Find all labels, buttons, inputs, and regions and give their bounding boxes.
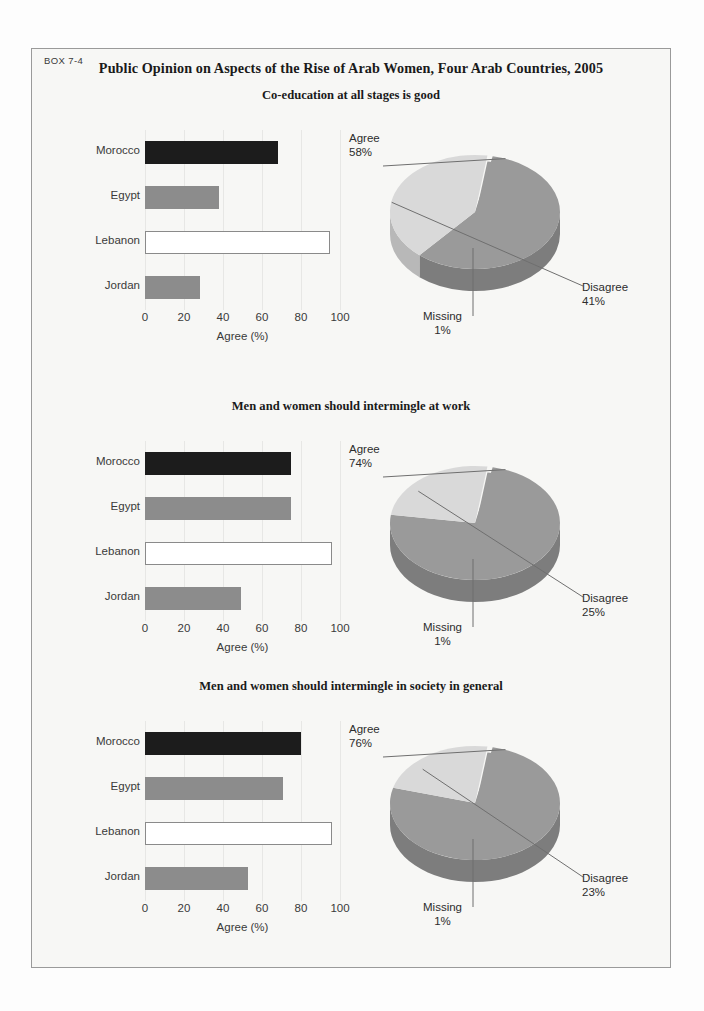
bar-category-label: Lebanon — [50, 825, 140, 837]
pie-label-disagree-text: Disagree — [582, 872, 628, 884]
x-tick-80: 80 — [295, 622, 308, 634]
pie-label-disagree: Disagree23% — [582, 871, 628, 900]
x-tick-0: 0 — [142, 622, 148, 634]
pie-label-missing-value: 1% — [423, 634, 462, 648]
x-tick-60: 60 — [256, 902, 269, 914]
pie-label-agree-value: 76% — [349, 736, 380, 750]
pie-label-missing-text: Missing — [423, 621, 462, 633]
bar-x-axis: 020406080100Agree (%) — [145, 902, 340, 936]
gridline-100 — [340, 441, 341, 621]
bar-plot-area: MoroccoEgyptLebanonJordan — [145, 441, 340, 621]
bar-chart-2: MoroccoEgyptLebanonJordan020406080100Agr… — [45, 441, 345, 656]
x-tick-80: 80 — [295, 311, 308, 323]
page-title: Public Opinion on Aspects of the Rise of… — [31, 60, 671, 77]
x-tick-60: 60 — [256, 622, 269, 634]
pie-label-agree-text: Agree — [349, 723, 380, 735]
pie-label-missing-text: Missing — [423, 310, 462, 322]
pie-label-disagree-value: 25% — [582, 605, 628, 619]
bar-plot-area: MoroccoEgyptLebanonJordan — [145, 721, 340, 901]
bar-category-label: Egypt — [50, 189, 140, 201]
bar-lebanon — [145, 542, 332, 565]
pie-graphic — [345, 130, 645, 345]
pie-label-missing-value: 1% — [423, 323, 462, 337]
bar-category-label: Egypt — [50, 780, 140, 792]
pie-label-disagree-text: Disagree — [582, 592, 628, 604]
bar-category-label: Morocco — [50, 144, 140, 156]
x-tick-0: 0 — [142, 902, 148, 914]
pie-label-agree: Agree76% — [349, 722, 380, 751]
x-tick-40: 40 — [217, 902, 230, 914]
x-tick-20: 20 — [178, 622, 191, 634]
pie-chart-2: Agree74%Disagree25%Missing1% — [345, 441, 645, 656]
bar-lebanon — [145, 231, 330, 254]
bar-row — [145, 175, 340, 220]
x-axis-title: Agree (%) — [145, 330, 340, 342]
bar-chart-1: MoroccoEgyptLebanonJordan020406080100Agr… — [45, 130, 345, 345]
bar-row — [145, 576, 340, 621]
bar-row — [145, 220, 340, 265]
bar-plot-area: MoroccoEgyptLebanonJordan — [145, 130, 340, 310]
x-tick-60: 60 — [256, 311, 269, 323]
bar-row — [145, 130, 340, 175]
bar-category-label: Jordan — [50, 279, 140, 291]
bar-egypt — [145, 777, 283, 800]
bar-morocco — [145, 452, 291, 475]
pie-label-disagree: Disagree25% — [582, 591, 628, 620]
x-tick-80: 80 — [295, 902, 308, 914]
pie-label-disagree: Disagree41% — [582, 280, 628, 309]
panel-title-2: Men and women should intermingle at work — [31, 399, 671, 414]
bar-morocco — [145, 141, 278, 164]
bar-category-label: Lebanon — [50, 545, 140, 557]
bar-category-label: Jordan — [50, 590, 140, 602]
bar-jordan — [145, 587, 241, 610]
bar-row — [145, 531, 340, 576]
bar-egypt — [145, 497, 291, 520]
bar-x-axis: 020406080100Agree (%) — [145, 311, 340, 345]
page-canvas: BOX 7-4 Public Opinion on Aspects of the… — [0, 0, 704, 1011]
pie-label-missing-value: 1% — [423, 914, 462, 928]
x-axis-title: Agree (%) — [145, 921, 340, 933]
pie-label-missing: Missing1% — [423, 309, 462, 338]
x-tick-40: 40 — [217, 311, 230, 323]
gridline-100 — [340, 721, 341, 901]
bar-category-label: Egypt — [50, 500, 140, 512]
bar-egypt — [145, 186, 219, 209]
bar-category-label: Lebanon — [50, 234, 140, 246]
bar-row — [145, 265, 340, 310]
bar-chart-3: MoroccoEgyptLebanonJordan020406080100Agr… — [45, 721, 345, 936]
pie-label-agree-text: Agree — [349, 443, 380, 455]
bar-category-label: Morocco — [50, 735, 140, 747]
bar-row — [145, 856, 340, 901]
bar-category-label: Jordan — [50, 870, 140, 882]
panel-title-1: Co-education at all stages is good — [31, 88, 671, 103]
x-tick-20: 20 — [178, 311, 191, 323]
x-axis-title: Agree (%) — [145, 641, 340, 653]
pie-graphic — [345, 721, 645, 936]
bar-row — [145, 486, 340, 531]
pie-label-missing: Missing1% — [423, 620, 462, 649]
panel-title-3: Men and women should intermingle in soci… — [31, 679, 671, 694]
bar-x-axis: 020406080100Agree (%) — [145, 622, 340, 656]
bar-morocco — [145, 732, 301, 755]
bar-category-label: Morocco — [50, 455, 140, 467]
pie-chart-3: Agree76%Disagree23%Missing1% — [345, 721, 645, 936]
bar-row — [145, 721, 340, 766]
bar-jordan — [145, 276, 200, 299]
x-tick-40: 40 — [217, 622, 230, 634]
bar-row — [145, 811, 340, 856]
pie-label-missing-text: Missing — [423, 901, 462, 913]
pie-graphic — [345, 441, 645, 656]
pie-slice-disagree — [391, 466, 488, 523]
pie-label-agree-text: Agree — [349, 132, 380, 144]
pie-label-missing: Missing1% — [423, 900, 462, 929]
pie-label-disagree-text: Disagree — [582, 281, 628, 293]
gridline-100 — [340, 130, 341, 310]
bar-row — [145, 766, 340, 811]
bar-row — [145, 441, 340, 486]
bar-lebanon — [145, 822, 332, 845]
x-tick-0: 0 — [142, 311, 148, 323]
pie-label-agree-value: 58% — [349, 145, 380, 159]
pie-label-disagree-value: 23% — [582, 885, 628, 899]
pie-chart-1: Agree58%Disagree41%Missing1% — [345, 130, 645, 345]
pie-label-agree-value: 74% — [349, 456, 380, 470]
